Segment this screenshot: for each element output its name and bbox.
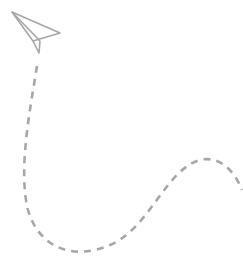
dashed-trail — [24, 66, 242, 252]
paper-plane-illustration — [0, 0, 243, 271]
paper-plane-icon — [12, 12, 60, 53]
